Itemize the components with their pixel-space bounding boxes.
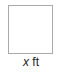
unit-ft: ft bbox=[32, 55, 39, 69]
side-length-label: x ft bbox=[0, 55, 62, 69]
variable-x: x bbox=[23, 55, 29, 69]
square-shape bbox=[8, 5, 53, 54]
